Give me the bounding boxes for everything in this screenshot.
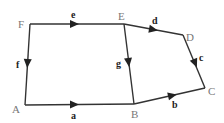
edge-label-a: a — [71, 110, 76, 121]
edge-label-e: e — [71, 9, 76, 20]
edge-label-c: c — [199, 52, 204, 63]
vertex-label-d: D — [186, 31, 194, 43]
edge-label-f: f — [16, 59, 20, 70]
arrow-g-icon — [124, 58, 133, 68]
arrow-e-icon — [70, 20, 79, 28]
vertex-label-c: C — [208, 85, 215, 97]
edge-label-d: d — [152, 15, 158, 26]
graph-diagram: A B C D E F a b c d e f g — [0, 0, 224, 123]
vertex-label-f: F — [18, 18, 24, 30]
arrow-a-icon — [70, 101, 79, 109]
vertex-label-e: E — [118, 10, 125, 22]
vertex-label-b: B — [131, 108, 138, 120]
edge-label-g: g — [116, 58, 121, 69]
edge-label-b: b — [172, 99, 178, 110]
vertex-label-a: A — [12, 103, 20, 115]
arrow-f-icon — [23, 59, 32, 68]
edge-a — [25, 104, 134, 105]
